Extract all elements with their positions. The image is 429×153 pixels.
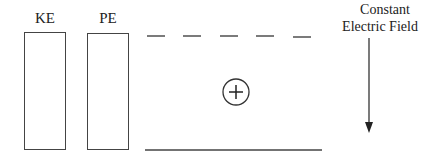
positive-charge-icon bbox=[223, 79, 249, 105]
top-plate-dashed bbox=[147, 36, 311, 37]
field-arrow-down-icon bbox=[365, 38, 373, 133]
field-diagram bbox=[0, 0, 429, 153]
